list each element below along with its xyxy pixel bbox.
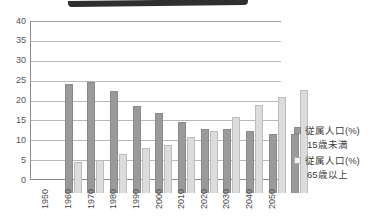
x-axis-tick: 1960 bbox=[54, 183, 77, 221]
y-axis-tick-label: 30 bbox=[2, 56, 26, 65]
x-axis-tick-label: 2050 bbox=[268, 189, 277, 209]
chart-legend: 従属人口(%) 15歳未満 従属人口(%) 65歳以上 bbox=[294, 124, 384, 184]
x-axis-tick: 1980 bbox=[99, 183, 122, 221]
x-axis-tick: 1970 bbox=[76, 183, 99, 221]
x-axis-tick: 2030 bbox=[212, 183, 235, 221]
y-axis-tick-label: 5 bbox=[2, 156, 26, 165]
x-axis-tick-label: 1950 bbox=[41, 189, 50, 209]
x-axis-tick-label: 2010 bbox=[177, 189, 186, 209]
x-axis-tick-label: 1980 bbox=[109, 189, 118, 209]
legend-item-younger: 従属人口(%) bbox=[294, 124, 384, 137]
bar-chart-figure: 4035302520151050 19501960197019801990200… bbox=[0, 8, 384, 221]
legend-swatch-older-icon bbox=[294, 157, 301, 164]
x-axis-tick-label: 2000 bbox=[155, 189, 164, 209]
x-axis-tick-label: 2030 bbox=[222, 189, 231, 209]
y-axis-tick-label: 35 bbox=[2, 36, 26, 45]
x-axis-tick-label: 1970 bbox=[87, 189, 96, 209]
legend-swatch-younger-icon bbox=[294, 127, 301, 134]
x-axis-tick-labels: 1950196019701980199020002010202020302040… bbox=[31, 183, 280, 221]
y-axis-tick-label: 10 bbox=[2, 136, 26, 145]
legend-sublabel-younger: 15歳未満 bbox=[307, 138, 384, 151]
y-axis-tick-label: 0 bbox=[2, 176, 26, 185]
x-axis-tick: 2010 bbox=[167, 183, 190, 221]
legend-sublabel-older: 65歳以上 bbox=[307, 168, 384, 181]
cropped-dark-banner bbox=[68, 0, 248, 7]
x-axis-tick: 1990 bbox=[122, 183, 145, 221]
x-axis-tick-label: 2020 bbox=[200, 189, 209, 209]
x-axis-tick: 2050 bbox=[257, 183, 280, 221]
chart-page: 4035302520151050 19501960197019801990200… bbox=[0, 0, 384, 221]
x-axis-tick: 2040 bbox=[235, 183, 258, 221]
x-axis-tick-label: 2040 bbox=[245, 189, 254, 209]
x-axis-tick: 1950 bbox=[31, 183, 54, 221]
x-axis-tick: 2000 bbox=[144, 183, 167, 221]
y-axis-tick-label: 15 bbox=[2, 116, 26, 125]
x-axis-tick-label: 1960 bbox=[64, 189, 73, 209]
y-axis-tick-label: 20 bbox=[2, 96, 26, 105]
legend-label-older: 従属人口(%) bbox=[305, 154, 360, 167]
y-axis-tick-label: 25 bbox=[2, 76, 26, 85]
legend-item-older: 従属人口(%) bbox=[294, 154, 384, 167]
x-axis-tick-label: 1990 bbox=[132, 189, 141, 209]
legend-label-younger: 従属人口(%) bbox=[305, 124, 360, 137]
x-axis-tick: 2020 bbox=[189, 183, 212, 221]
y-axis-tick-label: 40 bbox=[2, 17, 26, 26]
